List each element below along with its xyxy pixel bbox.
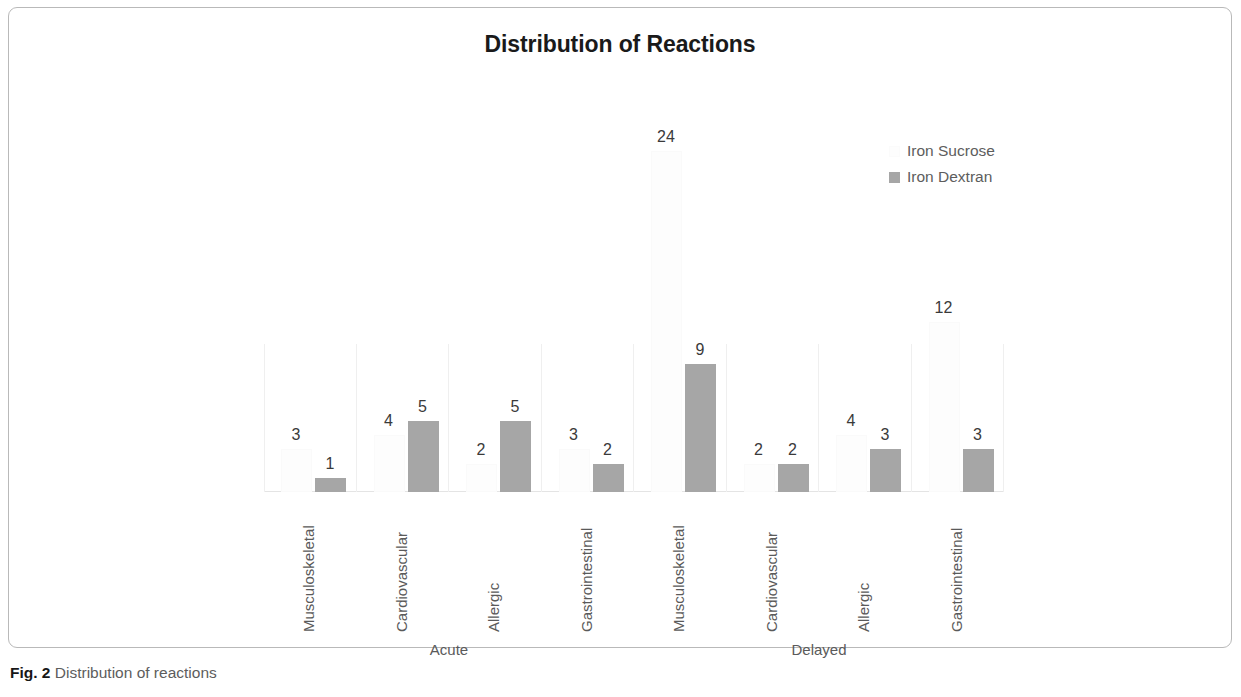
plot-area: 314525322492243123 — [264, 68, 1004, 492]
category-tick-label: Musculoskeletal — [634, 502, 727, 632]
figure-caption-text: Distribution of reactions — [55, 664, 217, 681]
bar-dextran[interactable] — [315, 478, 346, 492]
category-separator — [264, 344, 265, 492]
bar-value-label: 12 — [918, 299, 970, 317]
bar-dextran[interactable] — [870, 449, 901, 492]
chart-title: Distribution of Reactions — [9, 31, 1231, 58]
bar-dextran[interactable] — [500, 421, 531, 492]
bar-group: 25 — [449, 68, 542, 492]
category-tick-text: Gastrointestinal — [578, 528, 595, 632]
category-tick-label: Allergic — [819, 502, 912, 632]
bar-group: 123 — [912, 68, 1005, 492]
bar-value-label: 5 — [397, 398, 449, 416]
bar-value-label: 3 — [859, 426, 911, 444]
bar-value-label: 9 — [674, 341, 726, 359]
category-separator — [1003, 344, 1004, 492]
bar-dextran[interactable] — [685, 364, 716, 492]
bar-value-label: 3 — [270, 426, 322, 444]
bar-group: 249 — [634, 68, 727, 492]
bar-group: 31 — [264, 68, 357, 492]
bar-value-label: 1 — [304, 455, 356, 473]
bar-group: 22 — [727, 68, 820, 492]
category-tick-text: Musculoskeletal — [670, 525, 687, 632]
figure-caption-prefix: Fig. 2 — [10, 664, 50, 681]
category-tick-label: Gastrointestinal — [912, 502, 1005, 632]
category-tick-label: Allergic — [449, 502, 542, 632]
bar-sucrose[interactable] — [929, 322, 960, 492]
bar-dextran[interactable] — [963, 449, 994, 492]
category-tick-text: Cardiovascular — [393, 532, 410, 632]
category-tick-label: Musculoskeletal — [264, 502, 357, 632]
bar-sucrose[interactable] — [651, 151, 682, 492]
group-label-acute: Acute — [264, 641, 634, 658]
category-tick-label: Gastrointestinal — [542, 502, 635, 632]
bar-dextran[interactable] — [593, 464, 624, 492]
category-tick-text: Allergic — [855, 583, 872, 632]
bar-group: 32 — [542, 68, 635, 492]
bar-dextran[interactable] — [408, 421, 439, 492]
bar-sucrose[interactable] — [744, 464, 775, 492]
category-tick-label: Cardiovascular — [357, 502, 450, 632]
group-label-delayed: Delayed — [634, 641, 1004, 658]
bar-dextran[interactable] — [778, 464, 809, 492]
category-tick-text: Musculoskeletal — [300, 525, 317, 632]
bar-sucrose[interactable] — [374, 435, 405, 492]
category-tick-text: Allergic — [485, 583, 502, 632]
bar-value-label: 2 — [582, 441, 634, 459]
bar-group: 45 — [357, 68, 450, 492]
bar-value-label: 24 — [640, 128, 692, 146]
figure-panel: Distribution of Reactions Iron Sucrose I… — [8, 7, 1232, 648]
category-tick-text: Cardiovascular — [763, 532, 780, 632]
bar-value-label: 5 — [489, 398, 541, 416]
bar-sucrose[interactable] — [466, 464, 497, 492]
bar-value-label: 2 — [767, 441, 819, 459]
category-tick-text: Gastrointestinal — [948, 528, 965, 632]
figure-caption: Fig. 2 Distribution of reactions — [10, 664, 217, 682]
category-tick-label: Cardiovascular — [727, 502, 820, 632]
bar-value-label: 3 — [952, 426, 1004, 444]
bar-group: 43 — [819, 68, 912, 492]
